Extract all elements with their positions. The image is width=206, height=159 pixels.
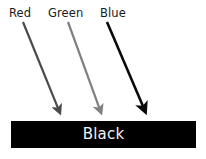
arrow-blue [107,22,145,111]
result-bar-label: Black [83,127,125,142]
arrow-label-green: Green [48,8,83,20]
arrow-label-red: Red [9,8,31,20]
arrow-green [68,22,101,112]
arrow-label-blue: Blue [100,8,126,20]
color-mixing-diagram: Red Green Blue Black [0,0,206,159]
result-bar: Black [11,121,196,148]
arrow-red [23,22,60,112]
